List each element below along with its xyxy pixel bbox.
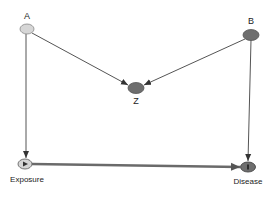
node-b-shape xyxy=(243,30,259,41)
edge-b-to-disease xyxy=(248,40,251,161)
node-z-label: Z xyxy=(133,96,139,106)
outcome-bar-icon xyxy=(247,165,248,170)
node-disease[interactable]: Disease xyxy=(234,162,263,186)
edge-b-to-z xyxy=(144,39,245,85)
node-b[interactable]: B xyxy=(243,16,259,41)
node-z[interactable]: Z xyxy=(128,83,144,107)
edge-a-to-z xyxy=(32,33,128,85)
node-b-label: B xyxy=(248,16,254,26)
node-disease-label: Disease xyxy=(234,177,263,186)
node-exposure-label: Exposure xyxy=(10,175,44,184)
node-exposure[interactable]: Exposure xyxy=(10,159,44,184)
node-a-shape xyxy=(20,24,34,34)
node-a[interactable]: A xyxy=(20,11,34,34)
edge-exposure-to-disease xyxy=(32,164,240,167)
dag-canvas: A B Z Exposure Disease xyxy=(0,0,274,197)
node-a-label: A xyxy=(24,11,30,21)
node-z-shape xyxy=(128,83,144,94)
